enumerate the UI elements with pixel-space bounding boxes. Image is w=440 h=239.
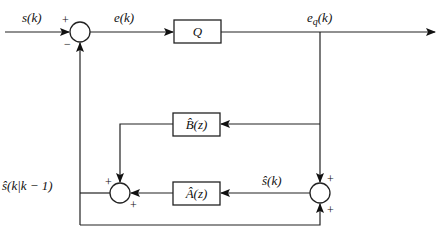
bottom-loop-wire [80,204,320,225]
error-label: e(k) [114,10,134,25]
lower-right-summer-plus-top: + [327,172,334,186]
estimate-label: ŝ(k) [262,173,282,188]
lower-right-summer-plus-bottom: + [327,203,334,217]
prediction-label: ŝ(k|k − 1) [2,178,53,193]
estimate-summing-junction [310,183,330,203]
top-summer-minus: − [64,37,71,51]
block-diagram: s(k) + − e(k) Q eq(k) B̂(z) + + + + ŝ(k)… [0,0,440,239]
a-filter-label: Â(z) [185,186,208,201]
lower-left-summer-plus-top: + [105,175,112,189]
b-filter-label: B̂(z) [186,117,208,132]
prediction-summing-junction [110,183,130,203]
quantized-error-label: eq(k) [307,10,332,27]
quantizer-label: Q [193,24,203,39]
b-output-wire [120,124,173,182]
lower-left-summer-plus-right: + [130,198,137,212]
top-summing-junction [70,22,90,42]
input-label: s(k) [22,10,42,25]
top-summer-plus: + [62,13,69,27]
